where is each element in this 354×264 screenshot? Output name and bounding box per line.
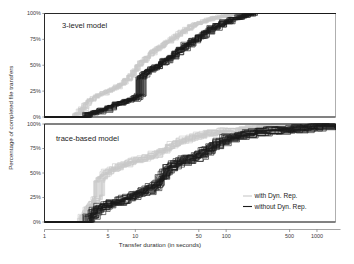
y-axis-title: Percentage of completed file transfers xyxy=(7,66,14,170)
x-tick-label: 1000 xyxy=(311,233,323,239)
y-tick-label-top: 100% xyxy=(27,10,41,16)
y-tick-label-bottom: 100% xyxy=(27,121,41,127)
y-tick-label-top: 75% xyxy=(30,36,41,42)
x-tick-label: 5 xyxy=(106,233,109,239)
panel-label-bottom: trace-based model xyxy=(56,134,119,143)
y-tick-label-bottom: 75% xyxy=(30,145,41,151)
legend-label-with-dyn-rep: with Dyn. Rep. xyxy=(254,192,298,200)
legend-label-without-dyn-rep: without Dyn. Rep. xyxy=(254,203,307,211)
y-tick-label-bottom: 0% xyxy=(33,219,41,225)
x-tick-label: 500 xyxy=(285,233,294,239)
x-tick-label: 10 xyxy=(132,233,138,239)
x-tick-label: 1 xyxy=(43,233,46,239)
y-tick-label-top: 25% xyxy=(30,88,41,94)
figure-container: 0%25%50%75%100%0%25%50%75%100%1510501005… xyxy=(0,0,354,264)
x-axis-title: Transfer duration (in seconds) xyxy=(119,241,201,248)
x-tick-label: 50 xyxy=(196,233,202,239)
x-tick-label: 100 xyxy=(222,233,231,239)
y-tick-label-top: 0% xyxy=(33,114,41,120)
y-tick-label-bottom: 25% xyxy=(30,194,41,200)
panel-label-top: 3-level model xyxy=(62,21,107,30)
y-tick-label-bottom: 50% xyxy=(30,170,41,176)
cdf-chart: 0%25%50%75%100%0%25%50%75%100%1510501005… xyxy=(0,0,354,264)
y-tick-label-top: 50% xyxy=(30,62,41,68)
